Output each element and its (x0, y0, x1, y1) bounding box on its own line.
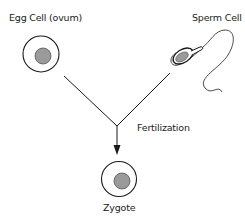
fertilization-label: Fertilization (137, 122, 190, 133)
zygote-label: Zygote (103, 202, 135, 213)
sperm-connector-line (117, 73, 170, 126)
diagram-graphics (0, 0, 245, 218)
sperm-cell-icon (170, 30, 233, 92)
sperm-cell-label: Sperm Cell (192, 12, 242, 23)
fertilization-diagram: Egg Cell (ovum) Sperm Cell Fertilization… (0, 0, 245, 218)
zygote-cell-icon (102, 162, 137, 197)
egg-cell-icon (23, 36, 59, 72)
egg-connector-line (64, 76, 117, 126)
egg-cell-label: Egg Cell (ovum) (9, 12, 82, 23)
arrow-down-icon (114, 126, 121, 155)
